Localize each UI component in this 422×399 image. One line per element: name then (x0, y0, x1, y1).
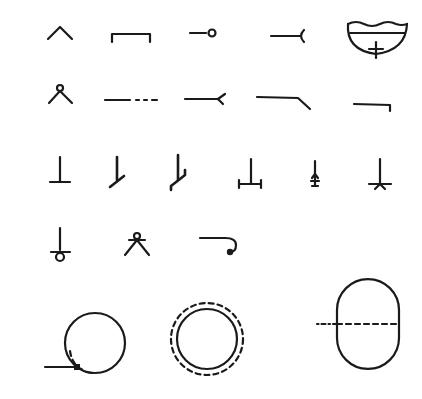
v-circle-icon (49, 85, 72, 103)
capsule-centerline-icon (317, 279, 399, 369)
stem-arrow-base-icon (311, 161, 319, 186)
line-right-hook-icon (354, 104, 390, 111)
stem-star-base-icon (369, 159, 391, 189)
double-circle-dashed-icon (171, 303, 243, 375)
inverted-t-icon (50, 157, 70, 182)
line-open-circle-icon (190, 30, 216, 37)
line-curl-dot-icon (200, 238, 236, 255)
stem-bar-circle-icon (51, 228, 70, 261)
line-fork-icon (185, 94, 225, 104)
circle-inlet-icon (45, 313, 125, 373)
caret-icon (48, 27, 72, 39)
v-circle-bar-icon (125, 233, 149, 255)
stem-slanted-foot-icon (110, 157, 124, 187)
line-angled-end-icon (257, 97, 310, 109)
stem-stepped-foot-icon (171, 155, 185, 190)
line-fork-end-icon (271, 30, 304, 42)
bracket-icon (112, 34, 150, 42)
wavy-basin-icon (348, 22, 407, 58)
symbol-sheet (0, 0, 422, 399)
stem-bar-ticks-icon (239, 159, 261, 188)
